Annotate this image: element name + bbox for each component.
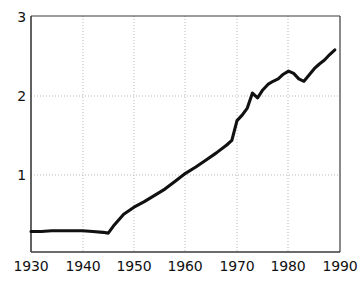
data-series-line [31,50,335,233]
x-tick-label-1950: 1950 [112,259,156,273]
line-chart: 3 2 1 1930 1940 1950 1960 1970 1980 1990 [0,0,361,283]
gridlines [31,16,340,252]
x-tick-label-1930: 1930 [9,259,53,273]
x-tick-label-1940: 1940 [61,259,105,273]
x-tick-label-1970: 1970 [215,259,259,273]
x-tick-label-1980: 1980 [266,259,310,273]
y-tick-label-1: 1 [14,168,26,182]
x-tick-label-1990: 1990 [318,259,361,273]
y-tick-label-3: 3 [14,10,26,24]
y-tick-label-2: 2 [14,89,26,103]
chart-plot-area [0,0,361,283]
x-tick-label-1960: 1960 [163,259,207,273]
